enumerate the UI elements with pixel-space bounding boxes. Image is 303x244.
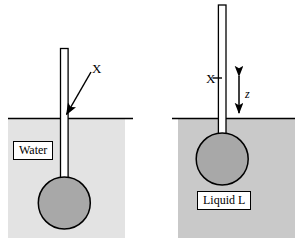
liquid-l-label-text: Liquid L: [203, 193, 245, 207]
x-marking-label-right-text: X: [206, 71, 215, 86]
x-marking-label-left-text: X: [92, 61, 101, 76]
water-label-box: Water: [13, 141, 53, 160]
water-label-text: Water: [19, 143, 47, 157]
z-distance-label: z: [245, 88, 250, 100]
hydrometer-tube-right: [218, 5, 226, 138]
figure-canvas: [0, 0, 303, 244]
hydrometer-tube-left: [61, 49, 69, 183]
x-marking-label-left: X: [92, 62, 101, 75]
liquid-l-label-box: Liquid L: [197, 191, 251, 210]
x-pointer-arrow-left: [67, 72, 92, 115]
x-marking-label-right: X: [206, 72, 215, 85]
hydrometer-figure: Water Liquid L X X z: [0, 0, 303, 244]
hydrometer-bulb-right: [196, 133, 248, 185]
z-distance-label-text: z: [245, 87, 250, 101]
hydrometer-bulb-left: [38, 177, 90, 229]
